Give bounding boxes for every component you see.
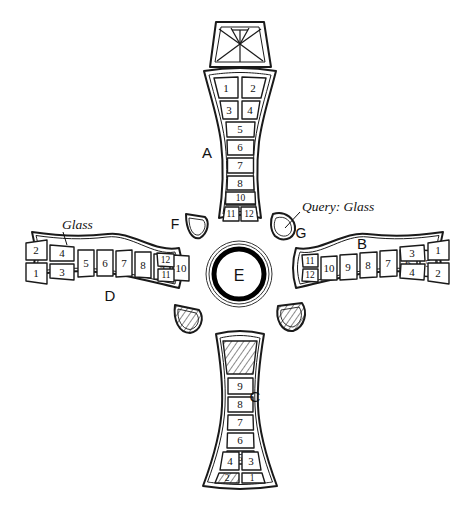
arm-a-cell-4-label: 4 [247, 104, 253, 116]
arm-a-cell-8-label: 8 [237, 177, 243, 189]
arm-d-cell-10-label: 10 [176, 262, 188, 274]
crown-fragment [210, 22, 271, 67]
arm-c-cell-2-label: 2 [225, 473, 230, 483]
fragment-g-label: G [296, 225, 307, 241]
arm-a-cell-5-label: 5 [237, 123, 243, 135]
arm-a: 1 2 3 4 5 6 7 8 9 10 11 12 A [202, 68, 276, 221]
arm-d-cell-1-label: 1 [33, 267, 39, 279]
arm-c-cell-9-label: 9 [237, 380, 243, 392]
arm-d-cell-8-label: 8 [140, 259, 146, 271]
arm-d-cell-4-label: 4 [59, 247, 65, 259]
arm-c-cell-3-label: 3 [248, 455, 254, 467]
arm-c-cell-4-label: 4 [227, 455, 233, 467]
arm-b-cell-7-label: 7 [385, 257, 391, 269]
arm-c-cell-7-label: 7 [237, 416, 243, 428]
arm-d-cell-2-label: 2 [33, 244, 39, 256]
fragment-f: F [171, 214, 208, 238]
arm-d-cell-11-label: 11 [161, 270, 170, 280]
arm-c: 9 8 7 6 5 4 3 2 1 C [203, 331, 277, 489]
arm-c-cell-6-label: 6 [237, 434, 243, 446]
arm-c-cell-hatched-top [223, 341, 257, 374]
arm-c-label: C [250, 388, 261, 405]
arm-a-cell-7-label: 7 [237, 159, 243, 171]
arm-d-label: D [105, 287, 116, 304]
arm-b-cell-3-label: 3 [409, 247, 415, 259]
arm-b-cell-12-label: 12 [305, 270, 315, 280]
arm-a-label: A [202, 144, 212, 161]
arm-d: 2 1 4 3 5 6 7 8 9 10 12 11 D [26, 232, 189, 304]
cross-diagram: 1 2 3 4 5 6 7 8 9 10 11 12 A 11 [0, 0, 475, 506]
arm-b-label: B [357, 235, 367, 252]
annotation-query-glass-text: Query: Glass [302, 199, 374, 214]
annotation-glass-text: Glass [62, 217, 93, 232]
arm-a-cell-1-label: 1 [223, 82, 229, 94]
arm-a-cell-12-label: 12 [244, 209, 254, 219]
arm-b-cell-9-label: 9 [345, 261, 351, 273]
arm-a-cell-2-label: 2 [250, 82, 256, 94]
fragment-g: G [271, 213, 306, 241]
arm-c-cell-1-label: 1 [250, 473, 255, 483]
arm-b-cell-1-label: 1 [435, 244, 441, 256]
center-label: E [234, 267, 245, 284]
arm-b-cell-8-label: 8 [365, 259, 371, 271]
arm-a-cell-11-label: 11 [226, 209, 235, 219]
arm-b-cell-4-label: 4 [409, 266, 415, 278]
arm-c-cell-8-label: 8 [237, 398, 243, 410]
arm-b-cell-11-label: 11 [305, 256, 314, 266]
arm-b: 11 12 10 9 8 7 6 5 3 4 1 2 B [293, 232, 449, 288]
fragment-f-label: F [171, 216, 180, 232]
arm-d-cell-5-label: 5 [83, 257, 89, 269]
figure-canvas: 1 2 3 4 5 6 7 8 9 10 11 12 A 11 [0, 0, 475, 506]
arm-d-cell-6-label: 6 [102, 257, 108, 269]
annotation-query-glass: Query: Glass [285, 199, 374, 229]
arm-d-cell-3-label: 3 [59, 266, 65, 278]
fragment-lower-right [277, 303, 305, 331]
arm-b-cell-2-label: 2 [435, 267, 441, 279]
arm-d-cell-12-label: 12 [161, 255, 171, 265]
fragment-lower-left [175, 305, 202, 333]
arm-b-cell-10-label: 10 [324, 262, 336, 274]
center-boss: E [206, 241, 272, 307]
arm-d-cell-7-label: 7 [121, 257, 127, 269]
arm-a-cell-10-label: 10 [236, 193, 246, 203]
arm-a-cell-6-label: 6 [237, 141, 243, 153]
arm-a-cell-3-label: 3 [226, 104, 232, 116]
